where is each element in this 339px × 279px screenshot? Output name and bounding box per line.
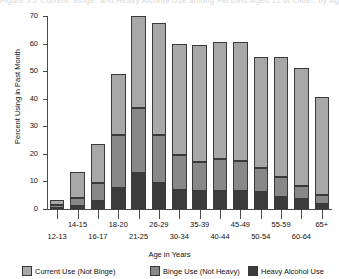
bar-35-39[interactable] [192,0,207,209]
chart-page: Figure 3.2 Current, Binge, and Heavy Alc… [0,0,339,279]
legend-label: Current Use (Not Binge) [35,267,115,276]
bar-45-49[interactable] [233,0,248,209]
bar-segment [213,191,228,209]
bar-segment [315,97,330,195]
x-axis-tick-label: 45-49 [224,220,256,229]
x-axis-tick [220,210,221,219]
bar-segment [254,192,269,209]
bar-segment [91,183,106,201]
x-axis-tick-label: 12-13 [41,232,73,241]
bar-segment [131,173,146,209]
x-axis-tick [200,210,201,219]
x-axis-tick [57,210,58,219]
bar-segment [91,201,106,209]
bar-segment [111,188,126,209]
legend-label: Binge Use (Not Heavy) [163,267,240,276]
x-axis-tick [159,210,160,219]
x-axis-tick-label: 65+ [306,220,338,229]
bar-segment [172,44,187,156]
bar-segment [274,197,289,209]
x-axis-tick-label: 60-64 [285,232,317,241]
bar-segment [254,168,269,193]
bar-segment [131,16,146,108]
bar-60-64[interactable] [294,0,309,209]
bar-65+[interactable] [315,0,330,209]
bar-21-25[interactable] [131,0,146,209]
legend-label: Heavy Alcohol Use [261,267,324,276]
bar-segment [131,108,146,173]
x-axis-tick-label: 40-44 [204,232,236,241]
bar-segment [152,23,167,135]
x-axis-tick [98,210,99,219]
x-axis-tick [118,210,119,219]
bars-layer [0,0,339,209]
bar-segment [111,74,126,135]
x-axis-tick [281,210,282,219]
x-axis-title: Age in Years [0,250,339,259]
bar-segment [111,135,126,189]
x-axis-tick-label: 35-39 [184,220,216,229]
bar-segment [213,159,228,191]
x-axis-tick-label: 21-25 [123,232,155,241]
bar-segment [192,45,207,162]
bar-18-20[interactable] [111,0,126,209]
x-axis-tick [78,210,79,219]
plot-area: Percent Using in Past Month 010203040506… [0,0,339,240]
bar-segment [70,198,85,206]
x-axis-tick-label: 30-34 [163,232,195,241]
x-axis-tick [261,210,262,219]
bar-14-15[interactable] [70,0,85,209]
bar-segment [172,155,187,189]
bar-40-44[interactable] [213,0,228,209]
bar-segment [50,205,65,208]
x-axis-tick [322,210,323,219]
bar-segment [152,135,167,183]
bar-50-54[interactable] [254,0,269,209]
x-axis-tick-label: 16-17 [82,232,114,241]
bar-segment [50,200,65,205]
legend-swatch-icon [248,266,258,276]
bar-segment [91,144,106,183]
bar-segment [315,195,330,204]
bar-segment [294,68,309,185]
bar-segment [152,183,167,209]
legend-swatch-icon [150,266,160,276]
bar-segment [294,186,309,200]
bar-segment [233,42,248,161]
legend-item[interactable]: Heavy Alcohol Use [248,266,324,276]
x-axis-tick [179,210,180,219]
bar-12-13[interactable] [50,0,65,209]
x-axis-tick [240,210,241,219]
x-axis-tick-label: 50-54 [245,232,277,241]
bar-segment [254,57,269,167]
bar-16-17[interactable] [91,0,106,209]
bar-segment [172,190,187,209]
bar-segment [213,42,228,159]
x-axis-line [47,209,332,210]
x-axis-tick [139,210,140,219]
bar-segment [233,161,248,191]
x-axis-tick [301,210,302,219]
x-axis-tick-label: 55-59 [265,220,297,229]
bar-55-59[interactable] [274,0,289,209]
legend-swatch-icon [22,266,32,276]
bar-26-29[interactable] [152,0,167,209]
bar-segment [192,162,207,191]
x-axis-tick-label: 14-15 [62,220,94,229]
bar-segment [274,177,289,196]
x-axis-tick-label: 26-29 [143,220,175,229]
bar-segment [192,191,207,209]
chart-legend: Current Use (Not Binge)Binge Use (Not He… [0,266,339,278]
bar-segment [233,191,248,209]
legend-item[interactable]: Current Use (Not Binge) [22,266,115,276]
bar-segment [70,172,85,198]
bar-segment [294,199,309,209]
bar-30-34[interactable] [172,0,187,209]
legend-item[interactable]: Binge Use (Not Heavy) [150,266,240,276]
bar-segment [274,57,289,177]
x-axis-tick-label: 18-20 [102,220,134,229]
